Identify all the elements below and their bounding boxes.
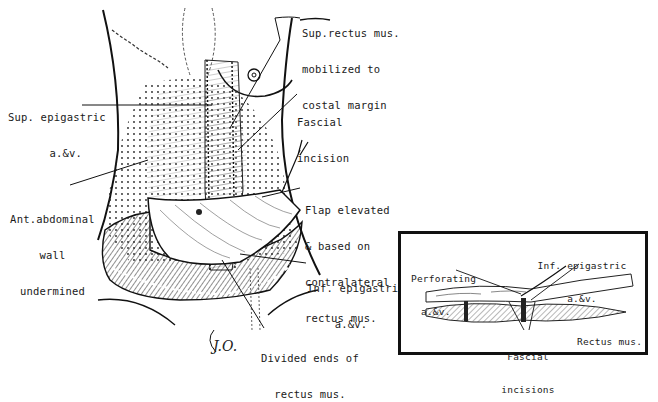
- label-line: a.&v.: [411, 306, 476, 317]
- label-line: Perforating: [411, 273, 476, 284]
- label-line: & based on: [305, 240, 390, 252]
- label-line: incisions: [496, 384, 560, 395]
- artist-signature: J.O.: [213, 338, 237, 354]
- label-fascial-incision: Fascial incision: [297, 92, 349, 188]
- inset-cross-section: Perforating a.&v. Inf. epigastric a.&v. …: [398, 231, 648, 355]
- label-sup-epigastric: Sup. epigastric a.&v.: [8, 87, 104, 183]
- inset-label-perforating: Perforating a.&v.: [411, 251, 476, 339]
- label-line: Inf. epigastric: [307, 282, 395, 294]
- label-line: Divided ends of: [258, 352, 362, 364]
- inset-label-rectus: Rectus mus.: [577, 314, 642, 369]
- label-line: incision: [297, 152, 349, 164]
- label-ant-abdominal: Ant.abdominal wall undermined: [5, 189, 100, 321]
- label-line: mobilized to: [302, 63, 400, 75]
- label-line: undermined: [5, 285, 100, 297]
- label-line: Rectus mus.: [577, 336, 642, 347]
- inset-label-inf-epigastric: Inf. epigastric a.&v.: [536, 238, 628, 326]
- label-line: Inf. epigastric: [536, 260, 628, 271]
- label-line: a.&v.: [8, 147, 104, 159]
- label-line: Fascial: [297, 116, 349, 128]
- label-line: Sup. epigastric: [8, 111, 104, 123]
- label-divided-ends: Divided ends of rectus mus.: [258, 328, 362, 402]
- inset-label-fascial-incisions: Fascial incisions: [496, 329, 560, 402]
- label-line: rectus mus.: [258, 388, 362, 400]
- label-line: Flap elevated: [305, 204, 390, 216]
- label-line: wall: [5, 249, 100, 261]
- label-line: Fascial: [496, 351, 560, 362]
- label-line: a.&v.: [536, 293, 628, 304]
- label-line: Ant.abdominal: [5, 213, 100, 225]
- label-line: Sup.rectus mus.: [302, 27, 400, 39]
- scar: [112, 30, 168, 68]
